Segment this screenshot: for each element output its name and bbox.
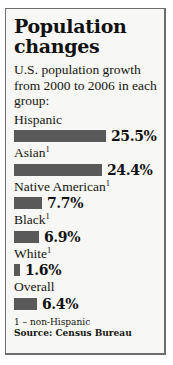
bar-row: 6.9% (14, 229, 157, 245)
bar (14, 130, 106, 142)
bar-group: Native American17.7% (14, 179, 157, 212)
bar-row: 25.5% (14, 128, 157, 144)
footnote-block: 1 – non-Hispanic Source: Census Bureau (14, 317, 157, 340)
bar (14, 298, 37, 310)
bar-value-label: 6.4% (42, 297, 78, 311)
bar-group-list: Hispanic25.5%Asian124.4%Native American1… (14, 112, 157, 312)
bar-category-label: Native American1 (14, 179, 157, 195)
bar-category-label: Asian1 (14, 145, 157, 161)
bar-group: Overall6.4% (14, 279, 157, 312)
infographic-panel: Population changes U.S. population growt… (5, 8, 166, 355)
bar-value-label: 24.4% (107, 163, 152, 177)
bar-category-label: White1 (14, 246, 157, 262)
bar-group: Hispanic25.5% (14, 112, 157, 145)
chart-subtitle: U.S. population growth from 2000 to 2006… (14, 62, 157, 109)
footnote-source: Source: Census Bureau (14, 328, 157, 340)
bar-row: 6.4% (14, 296, 157, 312)
bar (14, 231, 39, 243)
footnote-marker: 1 (46, 144, 50, 154)
footnote-definition: 1 – non-Hispanic (14, 317, 157, 329)
chart-title: Population changes (14, 16, 157, 56)
bar-category-label: Overall (14, 279, 157, 295)
bar-group: Black16.9% (14, 212, 157, 245)
bar-value-label: 7.7% (47, 196, 83, 210)
bar-row: 24.4% (14, 162, 157, 178)
bar (14, 164, 102, 176)
bar-category-label: Hispanic (14, 112, 157, 128)
bar-value-label: 25.5% (111, 129, 156, 143)
bar (14, 197, 42, 209)
footnote-marker: 1 (106, 177, 110, 187)
footnote-marker: 1 (46, 211, 50, 221)
bar-category-label: Black1 (14, 212, 157, 228)
bar-row: 1.6% (14, 262, 157, 278)
bar-value-label: 6.9% (44, 230, 80, 244)
bar-value-label: 1.6% (25, 263, 61, 277)
bar-group: White11.6% (14, 246, 157, 279)
footnote-marker: 1 (47, 244, 51, 254)
bar (14, 264, 20, 276)
bar-group: Asian124.4% (14, 145, 157, 178)
bar-row: 7.7% (14, 195, 157, 211)
